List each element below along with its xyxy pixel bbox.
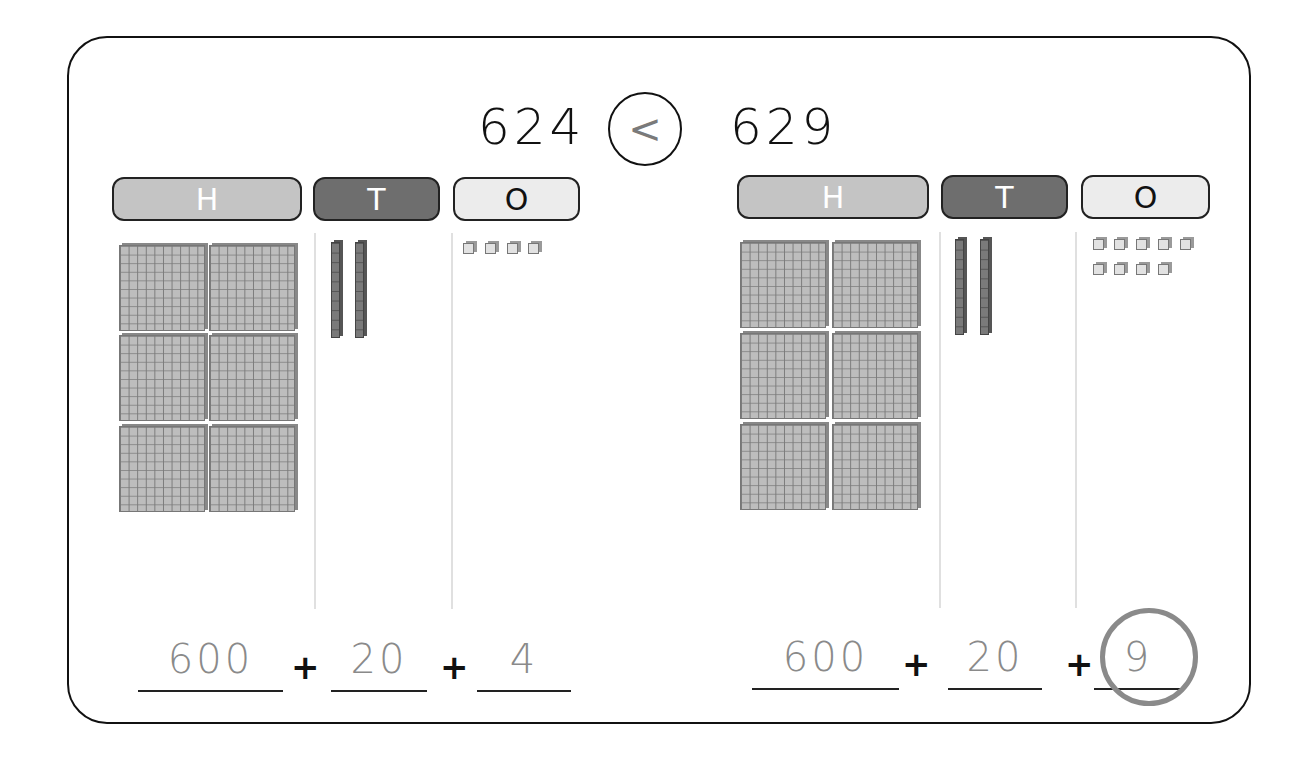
header-label: O	[1134, 180, 1158, 215]
comparison-circle: <	[608, 92, 682, 166]
hundred-block	[209, 426, 295, 512]
answer-line	[948, 688, 1042, 690]
ten-rod	[955, 239, 964, 335]
header-label: H	[196, 182, 219, 217]
hundred-block	[119, 245, 205, 331]
ten-rod	[980, 239, 989, 335]
header-label: H	[822, 180, 845, 215]
hundred-block	[209, 245, 295, 331]
left-divider-1	[314, 233, 316, 609]
hundred-block	[740, 424, 826, 510]
left-header-ones: O	[453, 177, 580, 221]
answer-line	[138, 690, 283, 692]
one-cube	[528, 243, 539, 254]
hundred-block	[832, 242, 918, 328]
right-header-hundreds: H	[737, 175, 929, 219]
one-cube	[507, 243, 518, 254]
comparison-symbol: <	[628, 106, 662, 152]
one-cube	[1180, 239, 1191, 250]
right-divider-1	[939, 232, 941, 608]
one-cube	[1136, 264, 1147, 275]
one-cube	[485, 243, 496, 254]
one-cube	[1114, 239, 1125, 250]
one-cube	[1136, 239, 1147, 250]
plus-sign: +	[440, 647, 469, 687]
hundred-block	[740, 242, 826, 328]
header-label: O	[505, 182, 529, 217]
expanded-value: 20	[331, 636, 427, 682]
left-header-hundreds: H	[112, 177, 302, 221]
hundred-block	[119, 426, 205, 512]
ten-rod	[355, 242, 364, 338]
right-header-tens: T	[941, 175, 1068, 219]
expanded-value: 4	[477, 636, 571, 682]
one-cube	[463, 243, 474, 254]
plus-sign: +	[291, 647, 320, 687]
expanded-value: 20	[948, 634, 1042, 680]
one-cube	[1093, 264, 1104, 275]
left-expanded-tens: 20	[331, 632, 427, 692]
hundred-block	[740, 333, 826, 419]
left-number: 624	[478, 98, 585, 156]
hundred-block	[119, 335, 205, 421]
one-cube	[1158, 239, 1169, 250]
highlight-circle	[1100, 608, 1198, 706]
plus-sign: +	[902, 644, 931, 684]
right-divider-2	[1075, 232, 1077, 608]
left-header-tens: T	[313, 177, 440, 221]
header-label: T	[995, 180, 1013, 215]
comparison-statement: 624 < 629	[0, 92, 1315, 172]
answer-line	[477, 690, 571, 692]
ten-rod	[331, 242, 340, 338]
one-cube	[1114, 264, 1125, 275]
answer-line	[752, 688, 899, 690]
hundred-block	[832, 424, 918, 510]
right-expanded-hundreds: 600	[752, 630, 899, 690]
hundred-block	[209, 335, 295, 421]
right-number: 629	[730, 98, 837, 156]
right-header-ones: O	[1081, 175, 1210, 219]
header-label: T	[367, 182, 385, 217]
hundred-block	[832, 333, 918, 419]
left-expanded-hundreds: 600	[138, 632, 283, 692]
left-divider-2	[451, 233, 453, 609]
one-cube	[1158, 264, 1169, 275]
right-expanded-tens: 20	[948, 630, 1042, 690]
left-expanded-ones: 4	[477, 632, 571, 692]
one-cube	[1093, 239, 1104, 250]
expanded-value: 600	[752, 634, 899, 680]
plus-sign: +	[1065, 644, 1094, 684]
answer-line	[331, 690, 427, 692]
expanded-value: 600	[138, 636, 283, 682]
